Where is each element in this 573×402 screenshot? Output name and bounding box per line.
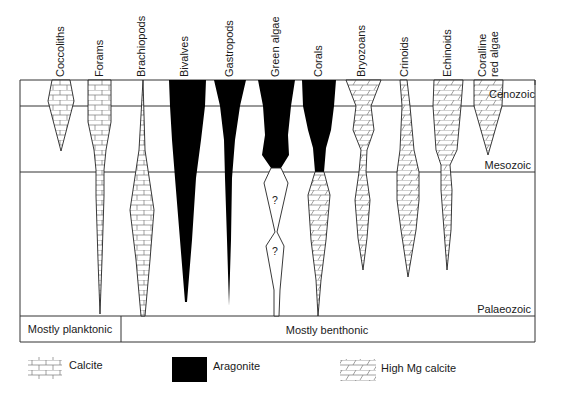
habitat-planktonic: Mostly planktonic <box>28 323 113 335</box>
habitat-benthonic: Mostly benthonic <box>286 324 369 336</box>
column-label-forams: Forams <box>93 39 105 77</box>
column-label-brachiopods: Brachiopods <box>135 15 147 77</box>
era-label-cenozoic: Cenozoic <box>489 88 535 100</box>
column-label-bivalves: Bivalves <box>178 36 190 77</box>
column-headers: Coccoliths Forams Brachiopods Bivalves G… <box>54 15 500 77</box>
era-label-mesozoic: Mesozoic <box>485 159 532 171</box>
legend-label-high-mg-calcite: High Mg calcite <box>381 362 456 374</box>
column-label-bryozoans: Bryozoans <box>355 25 367 77</box>
range-bivalves <box>169 80 206 302</box>
aragonite-swatch-icon <box>172 357 207 382</box>
legend-label-calcite: Calcite <box>69 359 103 371</box>
column-label-coralline-line2: red algae <box>488 31 500 77</box>
column-label-corals: Corals <box>312 45 324 77</box>
range-brachiopods <box>130 80 154 316</box>
unknown-marker-2: ? <box>272 245 278 257</box>
legend: Calcite Aragonite High Mg calcite <box>28 357 456 382</box>
era-label-palaeozoic: Palaeozoic <box>477 303 531 315</box>
legend-high-mg-calcite: High Mg calcite <box>340 359 456 381</box>
calcite-swatch-icon <box>28 357 62 379</box>
range-gastropods <box>214 80 246 306</box>
high-mg-calcite-swatch-icon <box>340 359 376 381</box>
column-label-echinoids: Echinoids <box>441 29 453 77</box>
column-label-green-algae: Green algae <box>269 16 281 77</box>
range-forams <box>88 80 111 314</box>
column-label-coccoliths: Coccoliths <box>54 26 66 77</box>
column-label-gastropods: Gastropods <box>223 20 235 77</box>
range-crinoids <box>397 80 419 277</box>
range-bryozoans <box>346 80 381 270</box>
range-corals-aragonite <box>302 80 336 172</box>
range-green-algae-unknown <box>264 168 288 316</box>
column-label-crinoids: Crinoids <box>398 36 410 77</box>
skeletal-mineralogy-diagram: ? ? Coccoliths Forams Brachiopods Bivalv… <box>0 0 573 402</box>
range-corals-himg <box>308 172 330 316</box>
legend-aragonite: Aragonite <box>172 357 260 382</box>
legend-label-aragonite: Aragonite <box>213 360 260 372</box>
range-coccoliths <box>48 80 74 151</box>
range-echinoids <box>433 80 463 270</box>
column-label-coralline-line1: Coralline <box>476 34 488 77</box>
range-green-algae-known <box>258 80 295 168</box>
unknown-marker-1: ? <box>272 194 278 206</box>
legend-calcite: Calcite <box>28 357 103 379</box>
